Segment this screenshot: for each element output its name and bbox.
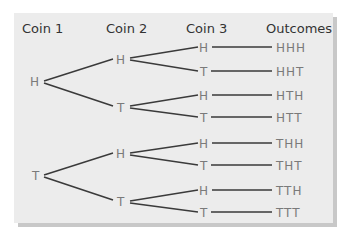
branch — [130, 95, 198, 106]
coin3-node: T — [199, 65, 208, 79]
branch — [130, 47, 198, 58]
branch — [44, 153, 113, 175]
coin3-node: H — [199, 41, 208, 55]
branch — [44, 83, 113, 106]
coin1-node-t: T — [31, 169, 40, 183]
branch — [130, 60, 198, 71]
coin3-node: H — [199, 89, 208, 103]
coin3-node: T — [199, 159, 208, 173]
coin2-node: T — [116, 195, 125, 209]
outcome-label: TTH — [275, 184, 302, 198]
outcome-label: THT — [275, 159, 303, 173]
outcome-label: THH — [275, 137, 304, 151]
branch — [130, 143, 198, 153]
coin1-node-h: H — [30, 75, 39, 89]
outcome-label: HTH — [276, 89, 304, 103]
coin2-node: H — [116, 147, 125, 161]
outcome-label: HHT — [276, 65, 304, 79]
coin2-node: H — [116, 53, 125, 67]
branch — [130, 190, 198, 201]
coin3-node: H — [199, 137, 208, 151]
outcome-label: TTT — [275, 206, 301, 220]
outcome-label: HTT — [276, 111, 302, 125]
tree-diagram: Coin 1 Coin 2 Coin 3 Outcomes H T H T H … — [0, 0, 349, 243]
header-coin2: Coin 2 — [106, 21, 147, 36]
coin3-node: H — [199, 184, 208, 198]
coin3-node: T — [199, 206, 208, 220]
coin3-node: T — [199, 111, 208, 125]
branch — [130, 155, 198, 165]
coin2-node: T — [116, 101, 125, 115]
header-outcomes: Outcomes — [266, 21, 332, 36]
outcome-label: HHH — [276, 41, 306, 55]
branch — [130, 203, 198, 212]
header-coin3: Coin 3 — [186, 21, 227, 36]
branch — [44, 177, 113, 200]
header-coin1: Coin 1 — [22, 21, 63, 36]
branch — [130, 108, 198, 117]
branch — [44, 59, 113, 81]
